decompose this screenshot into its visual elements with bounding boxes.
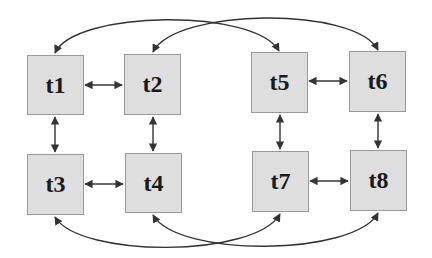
edge-t2-t6 — [153, 18, 378, 52]
node-t6: t6 — [349, 51, 406, 112]
node-t2: t2 — [124, 54, 181, 115]
edge-t1-t5 — [55, 20, 279, 53]
node-label: t2 — [143, 71, 163, 98]
node-t8: t8 — [350, 150, 407, 211]
node-label: t7 — [271, 168, 291, 195]
edge-t4-t8 — [153, 213, 378, 246]
edge-t3-t7 — [55, 214, 280, 247]
node-label: t1 — [46, 72, 66, 99]
node-t3: t3 — [27, 154, 84, 215]
node-label: t3 — [46, 171, 66, 198]
node-t7: t7 — [252, 151, 309, 212]
node-t1: t1 — [27, 55, 84, 115]
node-t5: t5 — [251, 52, 308, 113]
node-t4: t4 — [125, 153, 182, 213]
node-label: t4 — [144, 170, 164, 197]
node-label: t5 — [270, 69, 290, 96]
edges-layer — [0, 0, 432, 258]
node-label: t6 — [368, 68, 388, 95]
task-graph-diagram: t1 t2 t3 t4 t5 t6 t7 t8 — [0, 0, 432, 258]
node-label: t8 — [369, 167, 389, 194]
